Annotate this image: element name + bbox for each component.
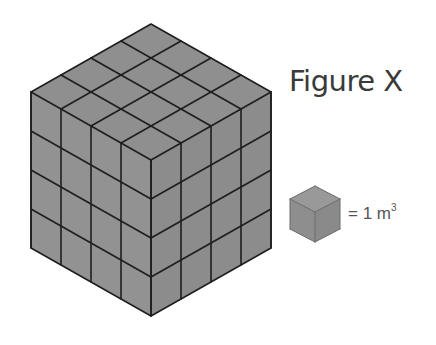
figure-canvas bbox=[0, 0, 436, 345]
legend-exponent: 3 bbox=[391, 202, 397, 213]
legend-equals: = 1 m bbox=[348, 204, 391, 223]
legend-label: = 1 m3 bbox=[348, 203, 397, 224]
unit-cube-icon bbox=[290, 186, 340, 242]
figure-title: Figure X bbox=[289, 64, 403, 98]
large-4x4x4-cube bbox=[31, 24, 271, 316]
